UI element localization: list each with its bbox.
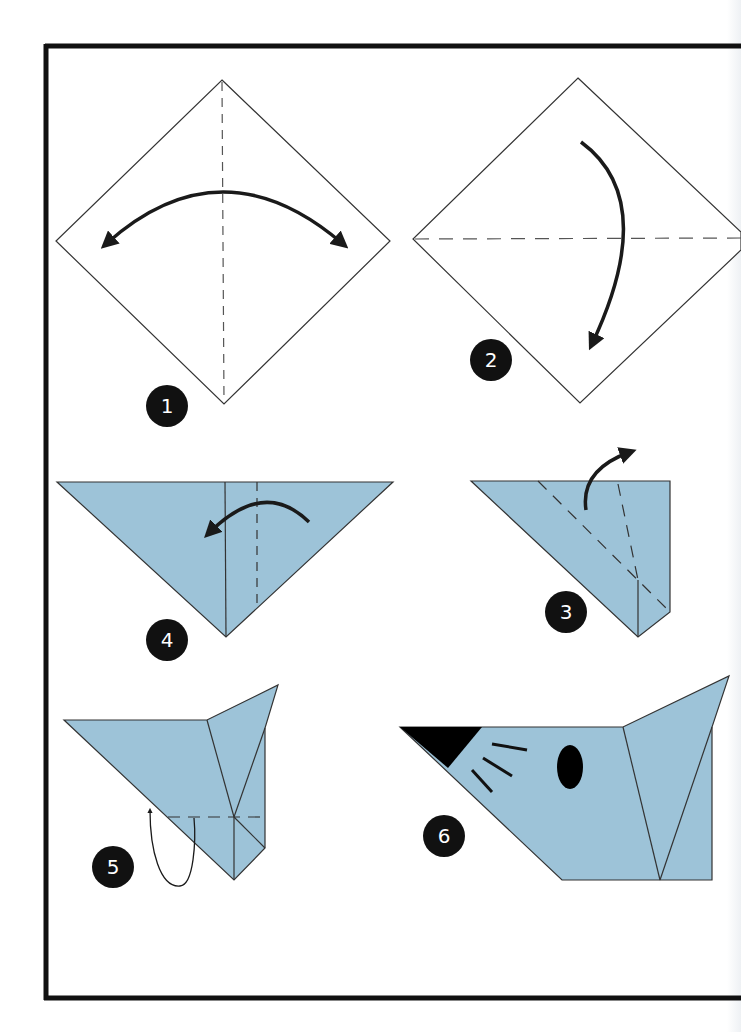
step-number: 6 xyxy=(438,824,451,848)
step-3: 3 xyxy=(471,452,670,637)
step-2: 2 xyxy=(413,78,741,403)
step-number: 1 xyxy=(161,394,174,418)
step-number: 5 xyxy=(107,855,120,879)
step-number: 4 xyxy=(161,628,174,652)
step-number-badge: 2 xyxy=(470,339,512,381)
step-5: 5 xyxy=(64,685,278,888)
step-number-badge: 1 xyxy=(146,385,188,427)
step-6: 6 xyxy=(400,676,729,880)
step-number-badge: 6 xyxy=(423,815,465,857)
step-number: 3 xyxy=(560,600,573,624)
origami-instructions-diagram: 1 2 4 3 xyxy=(0,0,741,1032)
paper-square xyxy=(413,78,741,403)
step-1: 1 xyxy=(56,80,390,427)
step-4: 4 xyxy=(57,482,393,661)
mouse-eye xyxy=(557,745,583,789)
step-number-badge: 4 xyxy=(146,619,188,661)
step-number-badge: 5 xyxy=(92,846,134,888)
step-number: 2 xyxy=(485,348,498,372)
step-number-badge: 3 xyxy=(545,591,587,633)
